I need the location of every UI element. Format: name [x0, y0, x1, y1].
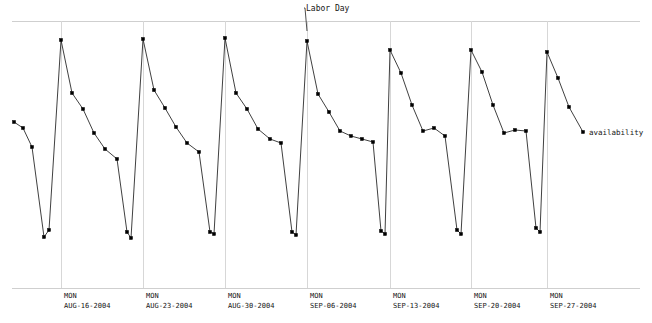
- data-point: [502, 131, 505, 134]
- data-point: [455, 228, 458, 231]
- data-point: [47, 228, 50, 231]
- data-point: [223, 36, 226, 39]
- data-point: [316, 92, 319, 95]
- data-point: [92, 131, 95, 134]
- data-point: [443, 134, 446, 137]
- data-point: [245, 107, 248, 110]
- x-tick-date: SEP-06-2004: [310, 302, 356, 312]
- data-point: [538, 230, 541, 233]
- data-point: [371, 140, 374, 143]
- x-tick-date: SEP-20-2004: [474, 302, 520, 312]
- data-point: [581, 130, 584, 133]
- data-point: [360, 137, 363, 140]
- x-tick-label-1: MONAUG-16-2004: [64, 292, 110, 311]
- data-point: [480, 70, 483, 73]
- x-tick-label-6: MONSEP-20-2004: [474, 292, 520, 311]
- data-point: [545, 50, 548, 53]
- data-point: [469, 48, 472, 51]
- data-point: [338, 129, 341, 132]
- data-point: [410, 103, 413, 106]
- series-line-0: [14, 38, 583, 238]
- data-point: [567, 105, 570, 108]
- data-point: [379, 229, 382, 232]
- data-point: [556, 76, 559, 79]
- data-point: [399, 71, 402, 74]
- x-tick-date: AUG-30-2004: [228, 302, 274, 312]
- data-point: [141, 37, 144, 40]
- data-point: [21, 126, 24, 129]
- data-point: [294, 233, 297, 236]
- data-point: [30, 145, 33, 148]
- series-markers: [12, 36, 584, 239]
- data-point: [383, 232, 386, 235]
- data-point: [524, 129, 527, 132]
- data-point: [103, 147, 106, 150]
- data-point: [290, 230, 293, 233]
- x-tick-date: AUG-23-2004: [146, 302, 192, 312]
- data-point: [268, 137, 271, 140]
- data-point: [388, 48, 391, 51]
- x-tick-label-7: MONSEP-27-2004: [550, 292, 596, 311]
- data-point: [59, 38, 62, 41]
- data-point: [115, 157, 118, 160]
- data-point: [208, 230, 211, 233]
- data-point: [432, 126, 435, 129]
- data-point: [81, 107, 84, 110]
- data-point: [12, 120, 15, 123]
- data-point: [42, 235, 45, 238]
- series-name-label: availability: [589, 128, 643, 137]
- data-point: [70, 91, 73, 94]
- availability-chart: MONAUG-16-2004MONAUG-23-2004MONAUG-30-20…: [0, 0, 652, 323]
- series-availability: [14, 38, 583, 238]
- data-point: [163, 106, 166, 109]
- data-point: [305, 39, 308, 42]
- data-point: [491, 103, 494, 106]
- grid-lines: [61, 21, 547, 288]
- data-point: [459, 232, 462, 235]
- x-tick-dayofweek: MON: [310, 292, 356, 302]
- x-tick-dayofweek: MON: [474, 292, 520, 302]
- x-tick-dayofweek: MON: [146, 292, 192, 302]
- chart-plot-area: [0, 0, 652, 323]
- x-tick-date: AUG-16-2004: [64, 302, 110, 312]
- data-point: [212, 232, 215, 235]
- data-point: [421, 129, 424, 132]
- axis-lines: [12, 21, 640, 288]
- x-tick-label-5: MONSEP-13-2004: [393, 292, 439, 311]
- x-tick-label-3: MONAUG-30-2004: [228, 292, 274, 311]
- x-tick-dayofweek: MON: [393, 292, 439, 302]
- x-tick-dayofweek: MON: [64, 292, 110, 302]
- labor-day-annotation: Labor Day: [306, 4, 349, 13]
- data-point: [197, 150, 200, 153]
- x-tick-dayofweek: MON: [228, 292, 274, 302]
- x-tick-date: SEP-13-2004: [393, 302, 439, 312]
- data-point: [534, 226, 537, 229]
- data-point: [129, 236, 132, 239]
- data-point: [349, 134, 352, 137]
- x-tick-label-2: MONAUG-23-2004: [146, 292, 192, 311]
- data-point: [234, 91, 237, 94]
- data-point: [174, 125, 177, 128]
- x-tick-label-4: MONSEP-06-2004: [310, 292, 356, 311]
- data-point: [279, 141, 282, 144]
- data-point: [185, 141, 188, 144]
- x-tick-dayofweek: MON: [550, 292, 596, 302]
- data-point: [125, 230, 128, 233]
- data-point: [327, 110, 330, 113]
- data-point: [152, 88, 155, 91]
- data-point: [256, 127, 259, 130]
- data-point: [513, 128, 516, 131]
- x-tick-date: SEP-27-2004: [550, 302, 596, 312]
